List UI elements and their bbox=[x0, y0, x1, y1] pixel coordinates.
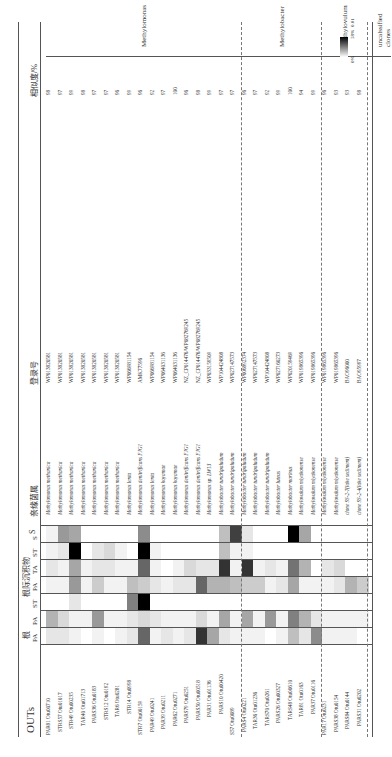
heatmap-cell bbox=[150, 594, 162, 611]
heatmap-cell bbox=[253, 611, 265, 628]
accession-label: WP104424808 bbox=[219, 352, 224, 383]
heatmap-cell bbox=[196, 611, 208, 628]
similarity-label: 96 bbox=[242, 90, 247, 95]
heatmap-cell bbox=[184, 543, 196, 560]
heatmap-cell bbox=[69, 611, 81, 628]
heatmap-cell bbox=[69, 628, 81, 645]
heatmap-cell bbox=[92, 628, 104, 645]
species-label: Methylomonas methanica bbox=[81, 462, 86, 515]
heatmap-cell bbox=[345, 594, 357, 611]
heatmap-cell bbox=[115, 628, 127, 645]
otu-label: STR14 Otu0998 bbox=[127, 680, 132, 714]
accession-label: WP019865396 bbox=[334, 352, 339, 383]
heatmap-cell bbox=[184, 594, 196, 611]
otu-label: TAR40 Otu01713 bbox=[81, 689, 86, 726]
group-bracket bbox=[368, 56, 391, 57]
heatmap-cell bbox=[81, 560, 93, 577]
heatmap-cell bbox=[276, 543, 288, 560]
heatmap-cell bbox=[150, 560, 162, 577]
species-label: Methylobacter tundripaludum bbox=[253, 453, 258, 515]
accession-label: WP027160273 bbox=[276, 352, 281, 383]
heatmap-divider bbox=[40, 525, 372, 526]
heatmap-cell bbox=[253, 594, 265, 611]
species-label: Methylobacter luteus bbox=[276, 471, 281, 515]
heatmap-cell bbox=[334, 526, 346, 543]
heatmap-cell bbox=[219, 611, 231, 628]
accession-label: WP013820581 bbox=[115, 352, 120, 383]
similarity-label: 97 bbox=[230, 90, 235, 95]
heatmap-cell bbox=[196, 594, 208, 611]
species-label: Methylomonas sp. LW13 bbox=[207, 464, 212, 515]
species-label: Methylomonas denitrificans FJG1 bbox=[196, 444, 201, 515]
otu-label: PAR81 Otu00710 bbox=[46, 698, 51, 735]
heatmap-cell bbox=[219, 543, 231, 560]
similarity-label: 96 bbox=[115, 90, 120, 95]
similarity-label: 99 bbox=[69, 90, 74, 95]
group-divider bbox=[367, 22, 368, 737]
heatmap-cell bbox=[345, 628, 357, 645]
heatmap-cell bbox=[115, 594, 127, 611]
accession-label: WP019865396 bbox=[311, 352, 316, 383]
accession-label: WP033159509 bbox=[207, 352, 212, 383]
heatmap-cell bbox=[81, 594, 93, 611]
similarity-label: 99 bbox=[311, 90, 316, 95]
header-root: 根 bbox=[20, 631, 31, 639]
sample-column-label: S bbox=[31, 536, 39, 540]
heatmap-cell bbox=[207, 628, 219, 645]
heatmap-cell bbox=[207, 594, 219, 611]
heatmap-cell bbox=[288, 628, 300, 645]
heatmap-cell bbox=[127, 611, 139, 628]
heatmap-cell bbox=[207, 560, 219, 577]
similarity-label: 99 bbox=[207, 90, 212, 95]
accession-label: NZ_CP014476/WP082769245 bbox=[196, 319, 201, 383]
otu-label: STRS57 Otu01017 bbox=[58, 692, 63, 732]
heatmap-cell bbox=[161, 594, 173, 611]
header-closest: 亲缘菌属 bbox=[28, 485, 39, 517]
heatmap-cell bbox=[322, 560, 334, 577]
header-sediment: S bbox=[28, 530, 37, 534]
similarity-label: 97 bbox=[253, 90, 258, 95]
heatmap-cell bbox=[184, 526, 196, 543]
similarity-label: 97 bbox=[92, 90, 97, 95]
heatmap-cell bbox=[242, 577, 254, 594]
similarity-label: 98 bbox=[196, 90, 201, 95]
species-label: clone SS-2-7(lake sediment) bbox=[345, 457, 350, 515]
heatmap-cell bbox=[322, 628, 334, 645]
heatmap-cell bbox=[150, 543, 162, 560]
heatmap-cell bbox=[58, 543, 70, 560]
heatmap-cell bbox=[265, 543, 277, 560]
heatmap-cell bbox=[161, 526, 173, 543]
heatmap-divider bbox=[40, 593, 372, 594]
heatmap-cell bbox=[115, 577, 127, 594]
similarity-label: 97 bbox=[104, 90, 109, 95]
heatmap-cell bbox=[242, 611, 254, 628]
heatmap-cell bbox=[345, 543, 357, 560]
heatmap-cell bbox=[173, 611, 185, 628]
otu-label: PARS4 Otu0221 bbox=[242, 697, 247, 732]
similarity-label: 98 bbox=[46, 90, 51, 95]
heatmap-cell bbox=[104, 560, 116, 577]
heatmap-cell bbox=[265, 560, 277, 577]
accession-label: AMK77596 bbox=[138, 358, 143, 383]
legend-gradient bbox=[340, 37, 348, 57]
header-accession: 登录号 bbox=[28, 361, 39, 385]
accession-label: WP019865396 bbox=[299, 352, 304, 383]
otu-label: STR49 Otu00235 bbox=[69, 692, 74, 729]
top-rule bbox=[18, 22, 19, 737]
sample-column-label: PA bbox=[31, 634, 39, 642]
heatmap-cell bbox=[265, 594, 277, 611]
heatmap-cell bbox=[207, 611, 219, 628]
heatmap-cell bbox=[265, 526, 277, 543]
species-label: Methylomonas lenta bbox=[127, 473, 132, 515]
heatmap-cell bbox=[92, 577, 104, 594]
species-label: Methylobacter marinus bbox=[288, 466, 293, 515]
heatmap-cell bbox=[138, 611, 150, 628]
heatmap-cell bbox=[219, 560, 231, 577]
heatmap-cell bbox=[322, 594, 334, 611]
heatmap-cell bbox=[46, 577, 58, 594]
heatmap-cell bbox=[150, 526, 162, 543]
heatmap-cell bbox=[242, 543, 254, 560]
heatmap-cell bbox=[345, 577, 357, 594]
sample-column-label: PA bbox=[31, 583, 39, 591]
